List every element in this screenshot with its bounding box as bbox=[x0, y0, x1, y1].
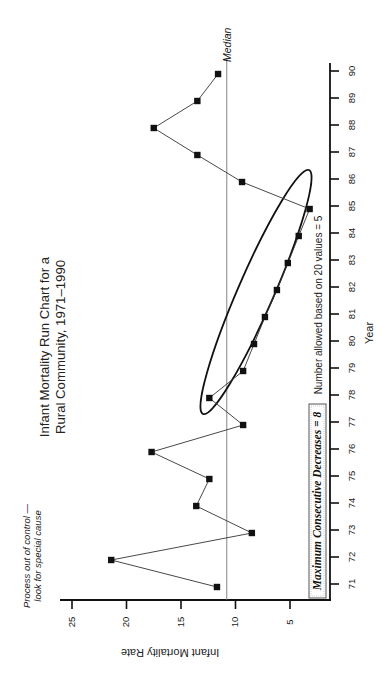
consecutive-decrease-ellipse bbox=[186, 163, 325, 421]
data-point-marker bbox=[194, 152, 200, 158]
data-point-marker bbox=[306, 206, 312, 212]
rate-label: Infant Mortality Rate bbox=[121, 647, 219, 659]
data-point-marker bbox=[148, 449, 154, 455]
year-tick-label: 82 bbox=[346, 282, 357, 293]
rate-tick-label: 10 bbox=[229, 617, 240, 628]
year-tick-label: 72 bbox=[346, 552, 357, 563]
year-tick-label: 84 bbox=[346, 228, 357, 239]
allowed-note: Number allowed based on 20 values = 5 bbox=[313, 215, 324, 394]
allowed-text: Number allowed based on 20 values = 5 bbox=[313, 215, 324, 394]
axes bbox=[60, 63, 331, 600]
data-point-marker bbox=[274, 287, 280, 293]
rate-tick-label: 5 bbox=[284, 619, 295, 624]
year-tick-label: 90 bbox=[346, 66, 357, 77]
data-point-marker bbox=[251, 341, 257, 347]
year-tick-label: 88 bbox=[346, 120, 357, 131]
max-consecutive-text: Maximum Consecutive Decreases = 8 bbox=[311, 412, 323, 592]
data-point-marker bbox=[215, 71, 221, 77]
data-point-marker bbox=[206, 395, 212, 401]
run-chart: 7172737475767778798081828384858687888990… bbox=[0, 0, 389, 683]
data-point-marker bbox=[262, 314, 268, 320]
max-consecutive-box: Maximum Consecutive Decreases = 8 bbox=[309, 404, 326, 598]
data-point-marker bbox=[206, 476, 212, 482]
rate-tick-label: 15 bbox=[175, 617, 186, 628]
year-tick-label: 71 bbox=[346, 579, 357, 590]
data-point-marker bbox=[214, 584, 220, 590]
rate-ticks: 510152025 bbox=[66, 600, 295, 627]
data-point-marker bbox=[193, 503, 199, 509]
process-note-line-2: look for special cause bbox=[32, 510, 43, 601]
data-point-marker bbox=[194, 98, 200, 104]
year-tick-label: 89 bbox=[346, 93, 357, 104]
year-tick-label: 78 bbox=[346, 390, 357, 401]
data-point-marker bbox=[240, 368, 246, 374]
year-tick-label: 81 bbox=[346, 309, 357, 320]
data-point-marker bbox=[240, 422, 246, 428]
series-markers bbox=[108, 71, 313, 590]
title-line-1: Infant Mortality Run Chart for a bbox=[37, 256, 52, 437]
title-line-2: Rural Community, 1971–1990 bbox=[53, 260, 68, 434]
year-tick-label: 83 bbox=[346, 255, 357, 266]
year-ticks: 7172737475767778798081828384858687888990 bbox=[330, 66, 357, 590]
year-tick-label: 76 bbox=[346, 444, 357, 455]
data-point-marker bbox=[151, 125, 157, 131]
y-axis-label: Infant Mortality Rate bbox=[121, 647, 219, 659]
data-point-marker bbox=[296, 233, 302, 239]
year-label: Year bbox=[363, 322, 375, 345]
data-point-marker bbox=[249, 530, 255, 536]
rate-tick-label: 20 bbox=[120, 617, 131, 628]
process-note: Process out of control — look for specia… bbox=[21, 503, 43, 608]
data-point-marker bbox=[108, 557, 114, 563]
x-axis-label: Year bbox=[363, 322, 375, 345]
year-tick-label: 75 bbox=[346, 471, 357, 482]
data-point-marker bbox=[239, 179, 245, 185]
year-tick-label: 86 bbox=[346, 174, 357, 185]
data-point-marker bbox=[285, 260, 291, 266]
process-note-line-1: Process out of control — bbox=[21, 503, 32, 608]
year-tick-label: 87 bbox=[346, 147, 357, 158]
rate-tick-label: 25 bbox=[66, 617, 77, 628]
year-tick-label: 79 bbox=[346, 363, 357, 374]
chart-title: Infant Mortality Run Chart for a Rural C… bbox=[37, 256, 68, 437]
year-tick-label: 73 bbox=[346, 525, 357, 536]
median-label: Median bbox=[221, 27, 233, 62]
year-tick-label: 74 bbox=[346, 498, 357, 509]
year-tick-label: 77 bbox=[346, 417, 357, 428]
year-tick-label: 80 bbox=[346, 336, 357, 347]
series-line bbox=[111, 74, 309, 587]
year-tick-label: 85 bbox=[346, 201, 357, 212]
